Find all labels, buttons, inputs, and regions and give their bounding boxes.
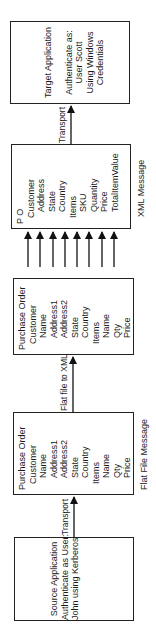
mapping-arrows	[28, 232, 114, 267]
transport-label-left: Transport	[60, 499, 70, 535]
transport-label-right: Transport	[57, 107, 67, 143]
connector-arrows	[0, 0, 156, 635]
diagram-canvas: Source Application Authenticate as User:…	[0, 0, 156, 635]
flat-file-to-xml-label: Flat file to XML	[59, 354, 69, 411]
